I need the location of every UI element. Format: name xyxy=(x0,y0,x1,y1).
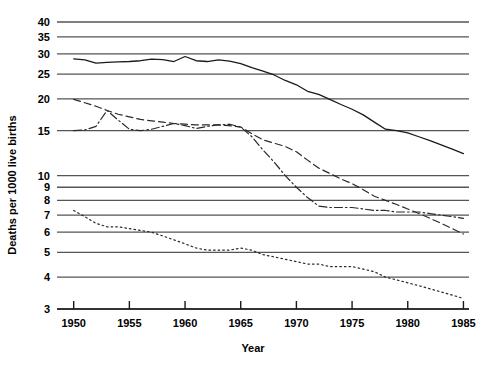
x-tick-label: 1980 xyxy=(396,317,420,329)
y-tick-label: 10 xyxy=(38,170,50,182)
y-axis-title: Deaths per 1000 live births xyxy=(6,115,18,254)
line-chart: 345678910152025303540 195019551960196519… xyxy=(0,0,485,365)
x-tick-label: 1970 xyxy=(284,317,308,329)
x-tick-label: 1955 xyxy=(117,317,141,329)
x-tick-label: 1950 xyxy=(61,317,85,329)
y-tick-label: 35 xyxy=(38,31,50,43)
y-tick-label: 7 xyxy=(44,209,50,221)
y-tick-label: 4 xyxy=(44,271,51,283)
x-tick-label: 1985 xyxy=(451,317,475,329)
x-axis-title: Year xyxy=(241,342,265,354)
y-tick-label: 40 xyxy=(38,16,50,28)
x-tick-label: 1960 xyxy=(173,317,197,329)
y-tick-label: 8 xyxy=(44,194,50,206)
x-tick-label: 1975 xyxy=(340,317,364,329)
y-tick-label: 25 xyxy=(38,68,50,80)
y-tick-label: 6 xyxy=(44,226,50,238)
y-tick-label: 3 xyxy=(44,303,50,315)
y-tick-label: 20 xyxy=(38,93,50,105)
y-tick-label: 5 xyxy=(44,246,50,258)
chart-container: 345678910152025303540 195019551960196519… xyxy=(0,0,485,365)
chart-background xyxy=(0,0,485,365)
y-tick-label: 9 xyxy=(44,181,50,193)
y-tick-label: 15 xyxy=(38,125,50,137)
x-tick-label: 1965 xyxy=(228,317,252,329)
y-tick-label: 30 xyxy=(38,48,50,60)
